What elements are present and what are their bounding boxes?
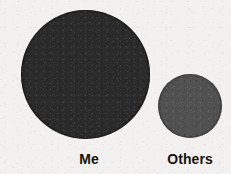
- bubble-label-others: Others: [153, 150, 227, 167]
- bubble-chart: Me Others: [0, 0, 231, 174]
- bubble-others: [158, 74, 222, 138]
- bubble-me: [21, 10, 150, 139]
- bubble-label-me: Me: [52, 150, 126, 167]
